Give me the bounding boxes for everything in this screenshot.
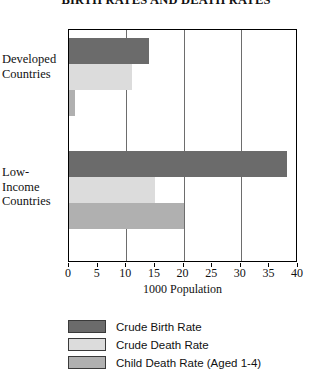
x-axis-tick-labels: 0510152025303540 [68,266,297,282]
category-label-developed-countries: Developed Countries [2,52,64,81]
category-label-line: Income [2,180,64,195]
bar [69,203,184,229]
x-tick-label: 35 [262,266,274,281]
category-label-line: Low- [2,165,64,180]
x-tick-label: 5 [94,266,100,281]
legend-swatch-icon [68,338,106,351]
chart-legend: Crude Birth Rate Crude Death Rate Child … [68,318,330,372]
legend-swatch-icon [68,320,106,333]
gridline-30 [241,30,242,261]
x-tick-label: 0 [65,266,71,281]
category-label-low-income-countries: Low- Income Countries [2,165,64,209]
bar [69,177,155,203]
legend-item-crude-death-rate: Crude Death Rate [68,336,330,353]
plot-area [68,29,297,262]
legend-item-label: Child Death Rate (Aged 1-4) [116,357,261,369]
category-label-line: Countries [2,67,64,82]
x-tick-label: 10 [119,266,131,281]
legend-item-label: Crude Birth Rate [116,321,202,333]
legend-item-child-death-rate: Child Death Rate (Aged 1-4) [68,354,330,371]
bar [69,151,287,177]
category-label-line: Countries [2,194,64,209]
bar [69,64,132,90]
x-axis-title: 1000 Population [68,282,297,297]
x-tick-label: 30 [234,266,246,281]
x-tick-label: 15 [148,266,160,281]
plot-inner [69,30,296,261]
gridline-20 [184,30,185,261]
chart-title: BIRTH RATES AND DEATH RATES [0,0,332,8]
x-tick-label: 40 [291,266,303,281]
legend-item-label: Crude Death Rate [116,339,209,351]
x-tick-label: 20 [177,266,189,281]
legend-item-crude-birth-rate: Crude Birth Rate [68,318,330,335]
bar [69,38,149,64]
category-label-line: Developed [2,52,64,67]
legend-swatch-icon [68,356,106,369]
bar [69,90,75,116]
x-tick-label: 25 [205,266,217,281]
